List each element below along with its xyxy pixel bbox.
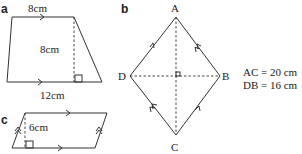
vertex-d-label: D [118,70,126,82]
double-arrow-icon [195,44,201,52]
fact-db: DB = 16 cm [243,79,298,91]
double-arrow-icon [96,127,102,134]
geometry-figures: a 8cm 8cm 12cm b A B C D AC = 20 cm DB =… [0,0,302,154]
right-angle-marker [176,72,180,76]
part-label-c: c [1,113,8,127]
part-label-b: b [121,2,128,16]
right-angle-marker [26,141,33,148]
figure-b: b A B C D AC = 20 cm DB = 16 cm [118,2,298,153]
part-label-a: a [1,2,8,16]
double-arrow-icon [150,104,157,112]
fact-ac: AC = 20 cm [243,66,298,78]
bottom-length-label: 12cm [40,89,65,101]
vertex-c-label: C [171,141,178,153]
vertex-a-label: A [171,2,179,14]
top-length-label: 8cm [28,2,47,14]
right-angle-marker [75,75,82,82]
vertex-b-label: B [222,70,229,82]
height-label: 6cm [29,121,48,133]
figure-c: c 6cm [1,110,107,151]
figure-a: a 8cm 8cm 12cm [1,2,102,101]
height-label: 8cm [40,43,59,55]
